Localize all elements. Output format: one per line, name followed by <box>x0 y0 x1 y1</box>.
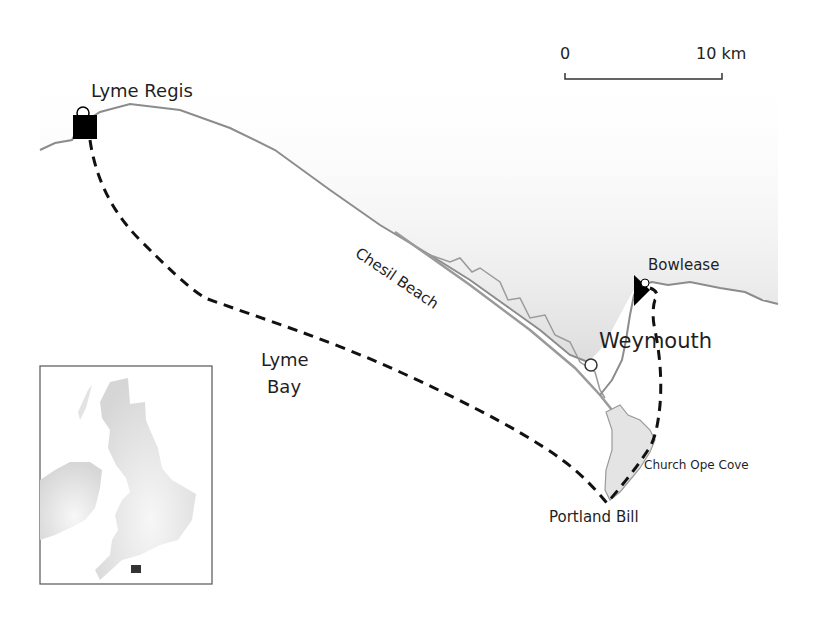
label-lyme-bay-line2: Bay <box>267 376 301 397</box>
label-bowlease: Bowlease <box>648 256 719 274</box>
label-church-ope-cove: Church Ope Cove <box>644 458 749 472</box>
bowlease-marker <box>634 275 650 306</box>
study-area-highlight <box>131 565 141 573</box>
label-weymouth: Weymouth <box>599 329 712 353</box>
scale-start-label: 0 <box>560 44 570 63</box>
weymouth-marker <box>585 359 597 371</box>
inset-map <box>40 366 212 584</box>
label-lyme-regis: Lyme Regis <box>91 80 193 101</box>
label-portland-bill: Portland Bill <box>549 508 639 526</box>
label-lyme-bay-line1: Lyme <box>261 349 309 370</box>
scale-end-label: 10 km <box>696 44 746 63</box>
